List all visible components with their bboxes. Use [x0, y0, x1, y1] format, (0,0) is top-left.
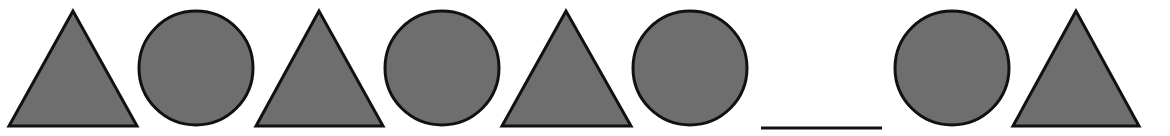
- shape-2-circle-icon: [139, 11, 253, 125]
- shape-9-triangle-icon: [1013, 11, 1139, 126]
- shape-4-circle-icon: [385, 11, 499, 125]
- shape-3-triangle-icon: [256, 11, 383, 126]
- shape-5-triangle-icon: [502, 11, 631, 126]
- shape-6-circle-icon: [633, 11, 747, 125]
- pattern-canvas: [0, 0, 1170, 136]
- shape-1-triangle-icon: [9, 11, 137, 126]
- shape-8-circle-icon: [895, 11, 1009, 125]
- pattern-diagram: [0, 0, 1170, 136]
